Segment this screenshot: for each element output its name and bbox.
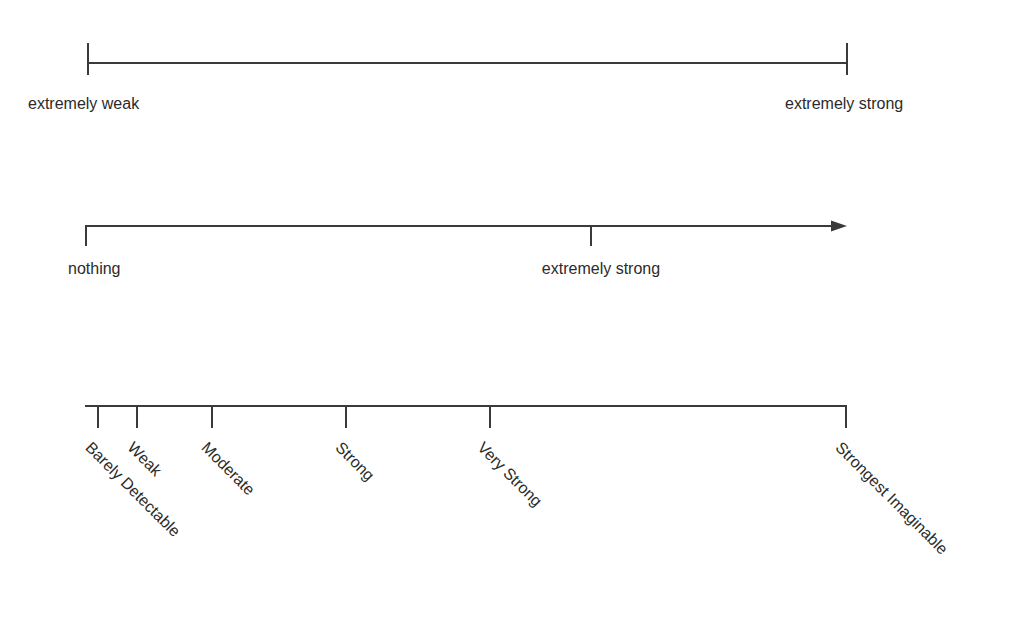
scale-2-arrow-head-icon	[831, 221, 847, 232]
scale-1-label-extremely-weak: extremely weak	[28, 95, 139, 113]
scale-1-group	[88, 43, 847, 75]
rating-scales-figure: extremely weak extremely strong nothing …	[0, 0, 1025, 618]
scale-2-label-extremely-strong: extremely strong	[542, 260, 660, 278]
scale-2-label-nothing: nothing	[68, 260, 121, 278]
scale-2-group	[85, 221, 847, 247]
scales-vector-layer	[0, 0, 1025, 618]
scale-3-group	[85, 406, 847, 428]
scale-1-label-extremely-strong: extremely strong	[785, 95, 903, 113]
